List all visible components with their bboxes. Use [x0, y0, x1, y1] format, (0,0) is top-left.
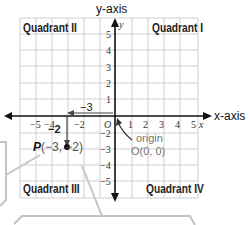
quadrant-i-label: Quadrant I [152, 22, 203, 34]
y-variable-label: y [119, 20, 123, 30]
origin-label: origin [136, 133, 163, 144]
x-axis-label: x-axis [214, 110, 245, 122]
x-tick: 3 [159, 120, 164, 130]
x-variable-label: x [199, 120, 203, 130]
y-move-label: −2 [48, 124, 61, 135]
x-move-label: −3 [80, 102, 93, 113]
y-tick: 3 [106, 63, 111, 73]
x-tick: 4 [175, 120, 180, 130]
y-tick: 5 [106, 30, 111, 40]
y-tick: −4 [100, 161, 111, 171]
y-tick: −2 [100, 129, 111, 139]
y-tick: −5 [100, 177, 111, 187]
x-tick: 5 [191, 120, 196, 130]
point-p-name: P [33, 140, 41, 154]
y-tick: 1 [106, 95, 111, 105]
y-tick: −3 [100, 145, 111, 155]
quadrant-iv-label: Quadrant IV [146, 183, 204, 195]
quadrant-ii-label: Quadrant II [23, 22, 77, 34]
point-p-coords: (−3, −2) [41, 140, 83, 154]
x-tick: 2 [143, 120, 148, 130]
x-tick: −5 [30, 120, 41, 130]
point-p-label: P(−3, −2) [33, 141, 83, 153]
quadrant-iii-label: Quadrant III [23, 183, 80, 195]
y-tick: 2 [106, 79, 111, 89]
y-tick: 4 [106, 46, 111, 56]
origin-coords-label: O(0, 0) [131, 146, 165, 157]
y-axis-label: y-axis [96, 3, 127, 15]
x-tick: −2 [74, 120, 85, 130]
x-tick: 1 [128, 120, 133, 130]
